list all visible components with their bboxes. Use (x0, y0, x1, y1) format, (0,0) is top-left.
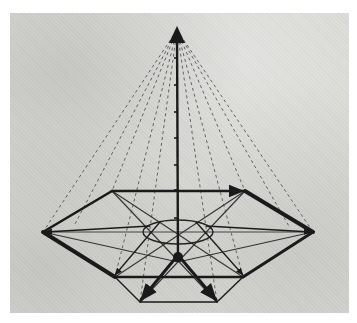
vertical-axis-arrow (177, 30, 178, 262)
hexagonal-pyramid-diagram (0, 0, 357, 323)
apex-arrowhead-icon (169, 26, 185, 43)
